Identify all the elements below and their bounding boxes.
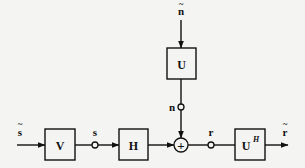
block-u: U: [167, 48, 196, 79]
node-s: [92, 142, 98, 148]
plus-icon: +: [177, 138, 184, 153]
input-signal-s-tilde: s ~: [18, 119, 23, 138]
output-tilde: ~: [283, 119, 288, 129]
summing-junction: +: [174, 138, 188, 153]
block-h: H: [119, 129, 148, 160]
noise-tilde: ~: [179, 0, 184, 9]
node-r-label: r: [209, 126, 214, 138]
node-r: [208, 142, 214, 148]
block-u-hermitian: U H: [235, 129, 265, 160]
block-v: V: [45, 129, 75, 160]
output-signal-r-tilde: r ~: [283, 119, 288, 138]
block-uh-base: U: [242, 139, 251, 153]
node-n: [178, 104, 184, 110]
block-u-label: U: [177, 58, 186, 72]
input-tilde: ~: [18, 119, 23, 129]
noise-signal-n-tilde: n ~: [178, 0, 184, 17]
block-v-label: V: [56, 139, 65, 153]
node-n-label: n: [169, 101, 175, 113]
block-uh-sup: H: [252, 135, 260, 144]
node-s-label: s: [93, 126, 98, 138]
block-diagram: s ~ V s H + n ~ U n r U H: [0, 0, 305, 168]
block-h-label: H: [129, 139, 139, 153]
